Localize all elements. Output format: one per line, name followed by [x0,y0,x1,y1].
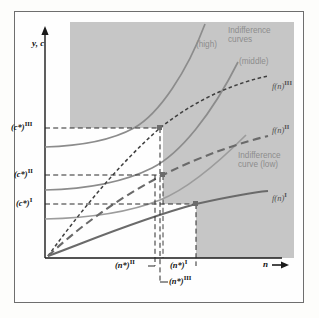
y-tick-label-c2: (c*)II [14,170,33,179]
y-tick-base-c3: (c*) [11,122,25,132]
annotation-high: (high) [196,40,217,49]
y-tick-sup-c1: I [30,196,33,203]
x-axis-arrowhead [281,261,289,268]
curve-label-fn3: f(n)III [272,82,292,91]
annotation-low-line2: curve (low) [238,160,281,169]
y-tick-sup-c3: III [25,120,33,127]
annotation-indifference-curves: Indifference curves [228,26,271,44]
x-tick-sup-n1: I [185,258,188,265]
x-tick-label-n2: (n*)II [115,261,135,270]
x-tick-sup-n2: II [130,258,135,265]
x-tick-base-n2: (n*) [115,260,130,270]
annotation-indifference-curve-low: Indifference curve (low) [238,151,281,169]
y-tick-label-c3: (c*)III [11,123,32,132]
x-tick-base-n1: (n*) [170,260,185,270]
x-tick-base-n3: (n*) [169,276,184,286]
curve-label-fn3-sup: III [284,79,292,86]
annotation-indifference-line2: curves [228,35,271,44]
tangency-point-I [193,201,198,206]
curve-label-fn2-base: f(n) [272,125,284,135]
y-tick-sup-c2: II [28,167,33,174]
tangency-point-II [160,172,165,177]
y-axis-arrowhead [41,26,48,35]
y-tick-base-c2: (c*) [14,169,28,179]
curve-label-fn3-base: f(n) [272,81,284,91]
curve-label-fn2-sup: II [284,123,289,130]
x-tick-label-n1: (n*)I [170,261,187,270]
curve-label-fn1: f(n)I [272,194,287,203]
curve-label-fn1-base: f(n) [272,193,284,203]
tangency-point-III [157,125,162,130]
curve-label-fn1-sup: I [284,191,287,198]
annotation-indifference-line1: Indifference [228,26,271,35]
y-tick-label-c1: (c*)I [16,199,32,208]
x-tick-sup-n3: III [184,274,192,281]
x-axis-label: n [263,260,268,269]
annotation-middle: (middle) [239,57,269,66]
curve-label-fn2: f(n)II [272,126,289,135]
y-axis-label: y, c [32,39,44,48]
figure-root: y, c n (c*)III (c*)II (c*)I (n*)II (n*)I… [0,0,319,318]
annotation-low-line1: Indifference [238,151,281,160]
y-tick-base-c1: (c*) [16,198,30,208]
x-tick-label-n3: (n*)III [169,277,191,286]
